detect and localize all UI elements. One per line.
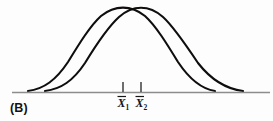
distribution-chart: X 1 X 2 (B) — [0, 0, 273, 121]
panel-label: (B) — [10, 101, 28, 115]
figure-panel-b: X 1 X 2 (B) — [0, 0, 273, 121]
tick-label-xbar1-subscript: 1 — [126, 103, 130, 112]
tick-label-xbar2-subscript: 2 — [144, 103, 148, 112]
